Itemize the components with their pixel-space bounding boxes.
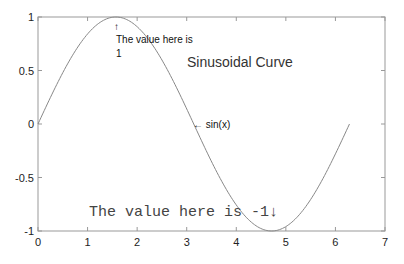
x-tick-label: 5: [283, 236, 289, 248]
x-tick-label: 0: [35, 236, 41, 248]
min-annotation-text: The value here is -1↓: [89, 204, 278, 221]
x-tick-label: 3: [184, 236, 190, 248]
y-tick-label: 0.5: [19, 65, 34, 77]
y-axis-tick-labels: -1-0.500.51: [15, 11, 34, 237]
max-annotation-text: The value here is: [116, 34, 193, 45]
y-tick-label: -0.5: [15, 172, 34, 184]
x-tick-label: 4: [233, 236, 239, 248]
sine-chart: 01234567 -1-0.500.51 ↑ The value here is…: [0, 0, 404, 264]
x-axis-tick-labels: 01234567: [35, 236, 388, 248]
series-label-annotation: ← sin(x): [193, 119, 230, 130]
up-arrow-annotation: ↑: [114, 21, 119, 32]
x-tick-label: 2: [134, 236, 140, 248]
y-tick-label: 1: [28, 11, 34, 23]
x-tick-label: 1: [85, 236, 91, 248]
x-tick-label: 7: [382, 236, 388, 248]
y-tick-label: 0: [28, 118, 34, 130]
x-tick-label: 6: [332, 236, 338, 248]
max-annotation-value: 1: [116, 48, 122, 59]
chart-title-annotation: Sinusoidal Curve: [187, 54, 293, 70]
y-tick-label: -1: [24, 225, 34, 237]
